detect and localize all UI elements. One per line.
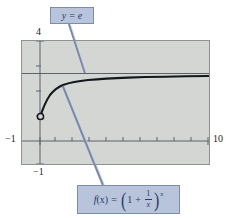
open-endpoint-marker xyxy=(37,113,43,119)
callout-f-of-x-expression: f (x) = ( 1 + 1 x ) x xyxy=(94,190,164,209)
y-axis-label-top: 4 xyxy=(36,26,41,37)
leader-line-f-of-x xyxy=(63,86,103,185)
callout-y-equals-e-expression: y = e xyxy=(62,11,83,21)
leader-line-y-equals-e xyxy=(69,24,85,73)
figure-container: 4 −1 −1 10 y = e f (x) = ( 1 + 1 x ) x xyxy=(0,0,232,218)
exponent-x: x xyxy=(160,191,163,198)
equals-sign-top: = xyxy=(69,11,75,21)
x-axis-label-left: −1 xyxy=(5,133,16,144)
leader-line-f-of-x-highlight xyxy=(64,86,104,185)
term-one: 1 xyxy=(127,195,132,205)
plot-frame-border xyxy=(22,41,210,165)
leader-line-y-equals-e-highlight xyxy=(70,24,86,73)
y-axis-label-bottom: −1 xyxy=(33,166,44,177)
constant-e: e xyxy=(78,11,82,21)
fraction-one-over-x: 1 x xyxy=(145,190,152,209)
fraction-denominator: x xyxy=(146,201,152,209)
callout-f-of-x: f (x) = ( 1 + 1 x ) x xyxy=(77,185,180,214)
fraction-numerator: 1 xyxy=(145,190,151,198)
x-axis-label-right: 10 xyxy=(213,133,223,144)
variable-y: y xyxy=(62,11,66,21)
function-argument: (x) xyxy=(97,195,109,205)
callout-y-equals-e: y = e xyxy=(50,7,94,24)
open-paren: ( xyxy=(121,191,126,209)
plus-sign: + xyxy=(135,195,141,205)
close-paren: ) xyxy=(154,191,159,209)
equals-sign-bottom: = xyxy=(111,195,117,205)
